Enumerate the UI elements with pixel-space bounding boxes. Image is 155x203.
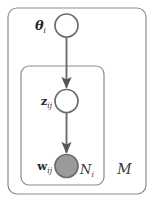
plate-diagram-svg: M Ni θi zij — [0, 0, 155, 203]
plate-inner-Ni-label-subscript: i — [91, 170, 94, 179]
node-z[interactable]: zij — [41, 90, 78, 113]
node-w-label-subscript: ij — [47, 166, 52, 175]
plate-inner-Ni-label: Ni — [79, 162, 94, 179]
node-w[interactable]: wij — [36, 155, 78, 178]
node-w-circle[interactable] — [55, 155, 78, 178]
node-theta-label-subscript: i — [44, 26, 47, 35]
node-z-circle[interactable] — [55, 90, 78, 113]
plate-inner-Ni-label-main: N — [79, 162, 92, 177]
node-theta-label: θi — [35, 18, 47, 35]
node-z-label-subscript: ij — [47, 101, 52, 110]
node-theta[interactable]: θi — [35, 14, 78, 37]
node-theta-circle[interactable] — [55, 14, 78, 37]
graphical-model-canvas: M Ni θi zij — [0, 0, 155, 203]
node-z-label: zij — [41, 94, 53, 110]
node-w-label: wij — [36, 159, 52, 175]
node-theta-label-main: θ — [35, 18, 44, 33]
plate-outer-M-label: M — [116, 161, 132, 177]
